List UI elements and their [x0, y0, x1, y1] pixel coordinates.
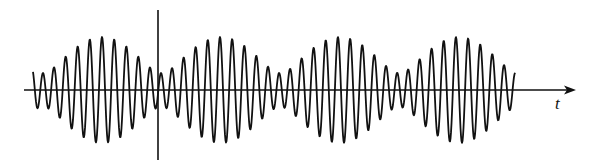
waveform-plot: t	[0, 0, 598, 168]
waveform-figure: t	[0, 0, 598, 168]
time-axis-label: t	[555, 94, 561, 113]
